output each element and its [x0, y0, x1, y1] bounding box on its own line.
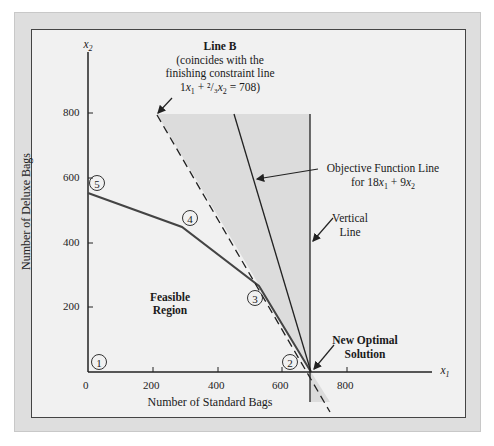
line-b-equation: 1x1 + ²/₃x2 = 708)	[150, 81, 290, 98]
corner-point-5: 5	[89, 175, 105, 191]
x-axis-title: Number of Standard Bags	[140, 396, 280, 409]
optimal-label-1: New Optimal	[325, 334, 405, 347]
corner-point-2: 2	[282, 354, 298, 370]
vertical-label-2: Line	[325, 226, 375, 239]
x-tick-label-400: 400	[208, 379, 225, 391]
y-axis-var: x2	[80, 38, 96, 55]
x-tick-label-200: 200	[143, 379, 160, 391]
line-b-desc-1: (coincides with the	[150, 54, 290, 67]
optimal-label-2: Solution	[325, 348, 405, 361]
x-axis-var: x1	[436, 364, 454, 381]
x-tick-label-800: 800	[337, 379, 354, 391]
x-tick-label-0: 0	[83, 379, 89, 391]
x-tick-label-600: 600	[272, 379, 289, 391]
y-tick-label-200: 200	[63, 300, 80, 312]
objective-label-2: for 18x1 + 9x2	[318, 176, 448, 193]
vertical-label-1: Vertical	[325, 212, 375, 225]
line-b-desc-2: finishing constraint line	[150, 67, 290, 80]
line-b-title: Line B	[170, 40, 270, 53]
y-tick-label-600: 600	[63, 171, 80, 183]
feasible-label-2: Region	[140, 304, 200, 317]
y-axis-title: Number of Deluxe Bags	[19, 153, 34, 270]
objective-label-1: Objective Function Line	[318, 162, 448, 175]
y-tick-label-800: 800	[63, 106, 80, 118]
corner-point-1: 1	[91, 354, 107, 370]
line-b-arrow	[158, 98, 172, 113]
corner-point-3: 3	[247, 290, 263, 306]
corner-point-4: 4	[182, 210, 198, 226]
y-tick-label-400: 400	[63, 236, 80, 248]
feasible-label-1: Feasible	[140, 291, 200, 304]
